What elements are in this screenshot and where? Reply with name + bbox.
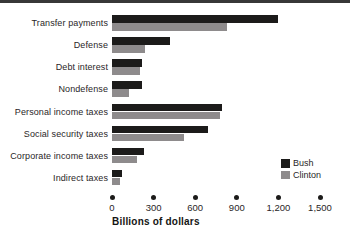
legend-swatch-clinton [281, 171, 290, 180]
axis-tick-dot [234, 195, 239, 200]
clinton-bar [112, 156, 137, 164]
figure-frame: Billions of dollars BushClinton Transfer… [0, 0, 350, 246]
bush-bar [112, 126, 208, 134]
category-label: Corporate income taxes [0, 150, 108, 162]
bush-bar [112, 104, 222, 112]
axis-tick-label: 1,200 [261, 202, 295, 213]
axis-tick-label: 600 [178, 202, 212, 213]
category-label: Defense [0, 39, 108, 51]
bush-bar [112, 170, 122, 178]
category-label: Personal income taxes [0, 106, 108, 118]
axis-tick-dot [276, 195, 281, 200]
axis-tick-dot [318, 195, 323, 200]
category-label: Social security taxes [0, 128, 108, 140]
axis-tick-label: 900 [220, 202, 254, 213]
category-label: Nondefense [0, 83, 108, 95]
x-axis-title: Billions of dollars [112, 216, 200, 227]
axis-tick-label: 1,500 [303, 202, 337, 213]
axis-tick-label: 300 [137, 202, 171, 213]
clinton-bar [112, 67, 140, 75]
legend-swatch-bush [281, 159, 290, 168]
category-label: Debt interest [0, 61, 108, 73]
axis-tick-dot [151, 195, 156, 200]
bush-bar [112, 59, 142, 67]
clinton-bar [112, 178, 120, 186]
legend-label: Bush [293, 158, 314, 169]
axis-tick-label: 0 [95, 202, 129, 213]
legend-label: Clinton [293, 170, 321, 181]
clinton-bar [112, 134, 184, 142]
clinton-bar [112, 89, 129, 97]
category-label: Indirect taxes [0, 172, 108, 184]
axis-tick-dot [193, 195, 198, 200]
bush-bar [112, 37, 170, 45]
bar-chart: Billions of dollars BushClinton Transfer… [0, 0, 350, 246]
axis-tick-dot [110, 195, 115, 200]
clinton-bar [112, 45, 145, 53]
clinton-bar [112, 23, 227, 31]
bush-bar [112, 148, 144, 156]
clinton-bar [112, 112, 220, 120]
category-label: Transfer payments [0, 17, 108, 29]
bush-bar [112, 81, 142, 89]
bush-bar [112, 15, 278, 23]
